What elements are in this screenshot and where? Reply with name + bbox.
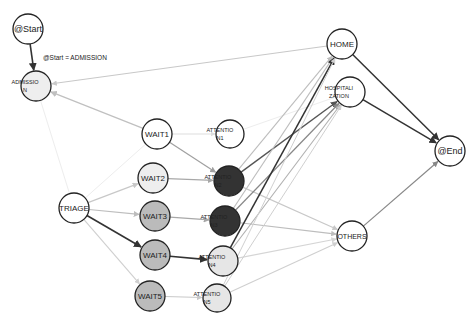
- node-home[interactable]: HOME: [327, 29, 357, 59]
- node-triage[interactable]: TRIAGE: [59, 193, 89, 223]
- node-label: WAIT5: [138, 292, 163, 301]
- node-wait3[interactable]: WAIT3: [140, 201, 170, 231]
- node-hospitalization[interactable]: HOSPITALIZATION: [325, 77, 365, 107]
- node-circle: [208, 246, 238, 276]
- node-label: WAIT4: [143, 251, 168, 260]
- node-label: TRIAGE: [59, 204, 89, 213]
- node-label: WAIT2: [141, 174, 166, 183]
- edge-attention3-to-others: [240, 223, 336, 234]
- edge-triage-to-wait4: [87, 216, 141, 247]
- node-wait4[interactable]: WAIT4: [140, 240, 170, 270]
- edge-attention5-to-others: [230, 243, 338, 292]
- edge-others-to-end: [363, 161, 438, 226]
- node-wait2[interactable]: WAIT2: [138, 163, 168, 193]
- node-label: WAIT3: [143, 212, 168, 221]
- node-wait1[interactable]: WAIT1: [142, 119, 172, 149]
- node-label: OTHERS: [337, 233, 367, 240]
- edge-home-to-end: [353, 55, 439, 140]
- process-graph: @Start = ADMISSION @StartADMISSIONWAIT1A…: [0, 0, 469, 328]
- node-admission[interactable]: ADMISSION: [12, 71, 51, 101]
- edge-home-to-admission: [52, 46, 327, 84]
- node-label: @End: [437, 146, 462, 156]
- edge-attention4-to-home: [230, 58, 334, 248]
- node-circle: [21, 71, 51, 101]
- start-edge-label: @Start = ADMISSION: [43, 54, 107, 61]
- node-attention2[interactable]: ATTENTION2: [205, 166, 244, 196]
- edge-start-to-admission: [30, 44, 34, 70]
- node-wait5[interactable]: WAIT5: [135, 281, 165, 311]
- node-label: ADMISSIO: [12, 79, 40, 85]
- node-label: ATTENTIO: [194, 291, 222, 297]
- edge-attention2-to-hospitalization: [241, 101, 337, 172]
- node-circle: [214, 166, 244, 196]
- node-label: N1: [216, 135, 223, 141]
- edge-attention3-to-hospitalization: [235, 103, 338, 210]
- node-start[interactable]: @Start: [13, 14, 43, 44]
- edge-attention2-to-home: [239, 56, 332, 169]
- edge-attention4-to-others: [238, 239, 337, 258]
- node-circle: [335, 77, 365, 107]
- node-attention3[interactable]: ATTENTION3: [201, 206, 240, 236]
- node-label: HOSPITALI: [325, 85, 354, 91]
- node-end[interactable]: @End: [435, 136, 465, 166]
- node-label: N5: [203, 299, 210, 305]
- node-label: ATTENTIO: [205, 174, 233, 180]
- node-attention4[interactable]: ATTENTION4: [199, 246, 238, 276]
- node-circle: [210, 206, 240, 236]
- node-label: N3: [210, 222, 217, 228]
- node-label: ATTENTIO: [207, 127, 235, 133]
- edge-hospitalization-to-end: [363, 100, 436, 143]
- edge-triage-to-wait3: [89, 209, 139, 214]
- node-label: @Start: [14, 24, 43, 34]
- edge-attention3-to-home: [233, 57, 333, 208]
- node-label: HOME: [330, 40, 354, 49]
- node-label: N: [23, 87, 27, 93]
- edge-attention2-to-others: [243, 187, 338, 229]
- edge-triage-to-wait1: [85, 145, 145, 198]
- node-label: ZATION: [329, 93, 349, 99]
- node-circle: [203, 284, 231, 312]
- node-label: N2: [214, 182, 221, 188]
- node-circle: [216, 120, 244, 148]
- node-label: N4: [208, 262, 215, 268]
- edge-wait1-to-admission: [51, 92, 143, 129]
- edge-admission-to-triage: [40, 100, 69, 192]
- edge-attention4-to-hospitalization: [232, 105, 340, 249]
- edge-wait1-to-attention2: [170, 142, 216, 172]
- node-label: ATTENTIO: [201, 214, 229, 220]
- node-label: WAIT1: [145, 130, 170, 139]
- node-label: ATTENTIO: [199, 254, 227, 260]
- edge-triage-to-wait2: [88, 184, 138, 203]
- node-others[interactable]: OTHERS: [337, 221, 367, 251]
